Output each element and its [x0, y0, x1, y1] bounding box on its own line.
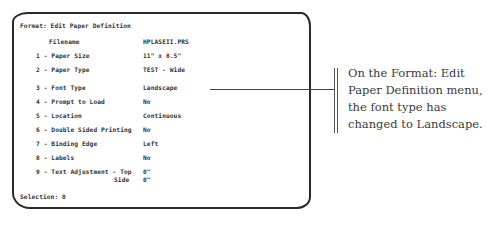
callout-bar — [337, 68, 338, 133]
value-prompt-to-load: No — [143, 98, 151, 105]
option-paper-type[interactable]: 2 - Paper Type — [36, 66, 90, 73]
selection-prompt[interactable]: Selection: 0 — [20, 193, 66, 200]
filename-value: HPLASEII.PRS — [143, 38, 189, 45]
option-labels[interactable]: 8 - Labels — [36, 154, 74, 161]
filename-label: Filename — [49, 38, 80, 45]
callout-leader-line — [210, 89, 335, 90]
value-binding-edge: Left — [143, 140, 158, 147]
option-location[interactable]: 5 - Location — [36, 112, 82, 119]
value-double-sided: No — [143, 126, 151, 133]
value-paper-size: 11" x 8.5" — [143, 52, 181, 59]
value-labels: No — [143, 154, 151, 161]
value-paper-type: TEST - Wide — [143, 66, 185, 73]
menu-title: Format: Edit Paper Definition — [20, 22, 131, 29]
callout-bar — [334, 68, 335, 133]
option-double-sided[interactable]: 6 - Double Sided Printing — [36, 126, 132, 133]
value-text-adjust-side: 0" — [143, 176, 151, 183]
text-adjust-side-label: Side — [114, 176, 129, 183]
value-font-type: Landscape — [143, 84, 177, 91]
option-binding-edge[interactable]: 7 - Binding Edge — [36, 140, 97, 147]
option-prompt-to-load[interactable]: 4 - Prompt to Load — [36, 98, 105, 105]
option-paper-size[interactable]: 1 - Paper Size — [36, 52, 90, 59]
option-text-adjustment[interactable]: 9 - Text Adjustment - Top — [36, 168, 132, 175]
option-font-type[interactable]: 3 - Font Type — [36, 84, 86, 91]
value-location: Continuous — [143, 112, 181, 119]
callout-note: On the Format: Edit Paper Definition men… — [348, 65, 494, 133]
value-text-adjust-top: 0" — [143, 168, 151, 175]
